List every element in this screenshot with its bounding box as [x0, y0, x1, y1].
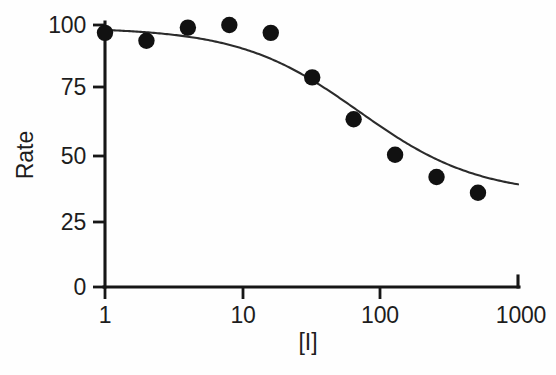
- data-point: [180, 19, 196, 35]
- y-tick-label-50: 50: [61, 143, 86, 169]
- x-axis-title: [I]: [298, 329, 317, 355]
- data-point: [428, 169, 444, 185]
- data-point: [263, 25, 279, 41]
- data-point: [97, 25, 113, 41]
- x-tick-label-100: 100: [361, 302, 399, 328]
- x-tick-label-1: 1: [99, 302, 112, 328]
- data-point: [470, 184, 486, 200]
- data-point: [138, 33, 154, 49]
- x-tick-label-1000: 1000: [496, 302, 546, 328]
- y-tick-label-75: 75: [61, 74, 86, 100]
- y-tick-label-25: 25: [61, 209, 86, 235]
- data-point: [345, 111, 361, 127]
- chart-figure: 100 75 50 25 0 1 10 100 1000 [I] Rate: [0, 0, 556, 375]
- y-tick-label-0: 0: [73, 274, 86, 300]
- x-tick-label-10: 10: [230, 302, 255, 328]
- y-axis-title: Rate: [12, 131, 38, 180]
- data-point: [221, 17, 237, 33]
- data-point: [304, 69, 320, 85]
- y-tick-label-100: 100: [48, 12, 86, 38]
- dose-response-chart: 100 75 50 25 0 1 10 100 1000 [I] Rate: [0, 0, 556, 375]
- data-point: [387, 146, 403, 162]
